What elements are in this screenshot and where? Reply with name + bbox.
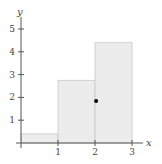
y-tick-label: 2 xyxy=(9,92,15,102)
x-tick-label: 3 xyxy=(129,147,135,157)
x-axis-label: x xyxy=(146,137,152,148)
x-tick-label: 1 xyxy=(55,147,61,157)
bars xyxy=(21,43,132,143)
y-tick-label: 4 xyxy=(9,47,15,57)
y-tick-label: 3 xyxy=(9,70,15,80)
y-tick-label: 1 xyxy=(9,115,15,125)
bar-1 xyxy=(21,134,58,143)
y-axis-label: y xyxy=(16,6,23,17)
x-tick-label: 2 xyxy=(92,147,98,157)
bar-2 xyxy=(58,80,95,143)
y-tick-label: 5 xyxy=(9,24,15,34)
data-point xyxy=(94,99,98,103)
bar-3 xyxy=(95,43,132,143)
chart: x y 12312345 xyxy=(0,0,162,164)
